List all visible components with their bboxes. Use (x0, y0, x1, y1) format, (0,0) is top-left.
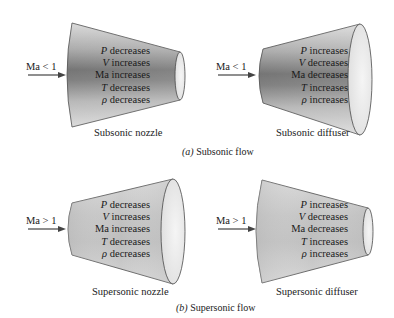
subsonic-nozzle-caption: Subsonic nozzle (94, 127, 163, 138)
subsonic-nozzle-properties: P decreases V increases Ma increases T d… (95, 45, 150, 106)
property-row: T increases (291, 82, 348, 94)
property-row: V decreases (291, 211, 348, 223)
subsonic-diffuser-mach-label: Ma < 1 (216, 61, 246, 72)
property-row: ρ decreases (95, 94, 150, 106)
subsonic-nozzle-mach-label: Ma < 1 (26, 61, 56, 72)
property-row: T decreases (95, 236, 150, 248)
property-row: P decreases (95, 45, 150, 57)
supersonic-diffuser-inlet-arrow (218, 226, 256, 232)
subsonic-nozzle-inlet-arrow (28, 72, 66, 78)
property-row: Ma increases (95, 69, 150, 81)
section-b-title: (b) Supersonic flow (176, 302, 255, 313)
supersonic-diffuser-caption: Supersonic diffuser (276, 286, 358, 297)
supersonic-nozzle-mach-label: Ma > 1 (26, 215, 56, 226)
property-row: Ma decreases (291, 223, 348, 235)
supersonic-nozzle-properties: P decreases V increases Ma increases T d… (95, 199, 150, 260)
property-row: T increases (291, 236, 348, 248)
property-row: T decreases (95, 82, 150, 94)
subsonic-diffuser-caption: Subsonic diffuser (276, 127, 350, 138)
property-row: ρ increases (291, 94, 348, 106)
subsonic-diffuser-properties: P increases V decreases Ma decreases T i… (291, 45, 348, 106)
section-a-title: (a) Subsonic flow (182, 146, 254, 157)
supersonic-nozzle-inlet-arrow (28, 226, 66, 232)
property-row: ρ increases (291, 248, 348, 260)
property-row: Ma increases (95, 223, 150, 235)
property-row: P increases (291, 199, 348, 211)
property-row: ρ decreases (95, 248, 150, 260)
property-row: Ma decreases (291, 69, 348, 81)
property-row: P decreases (95, 199, 150, 211)
property-row: V increases (95, 57, 150, 69)
property-row: P increases (291, 45, 348, 57)
subsonic-diffuser-inlet-arrow (218, 72, 256, 78)
supersonic-diffuser-properties: P increases V decreases Ma decreases T i… (291, 199, 348, 260)
property-row: V increases (95, 211, 150, 223)
supersonic-diffuser-mach-label: Ma > 1 (216, 215, 246, 226)
property-row: V decreases (291, 57, 348, 69)
supersonic-nozzle-caption: Supersonic nozzle (92, 286, 169, 297)
